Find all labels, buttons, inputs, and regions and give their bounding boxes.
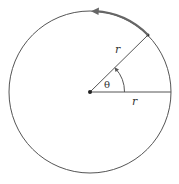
- arc-length-path: [95, 11, 148, 35]
- radius-label-top: r: [115, 43, 121, 56]
- radius-label-bottom: r: [132, 95, 138, 108]
- center-dot: [88, 90, 92, 94]
- arc-arrowhead-icon: [91, 8, 99, 16]
- angle-arc: [116, 69, 125, 93]
- angle-label-theta: θ: [104, 79, 110, 90]
- circle-diagram: r r θ: [0, 0, 179, 184]
